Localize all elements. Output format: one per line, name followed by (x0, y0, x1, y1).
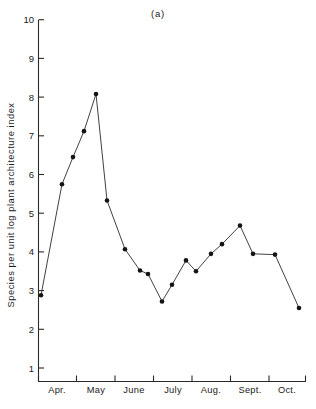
data-point (194, 269, 199, 274)
data-point (273, 252, 278, 257)
data-point (39, 293, 44, 298)
data-point (184, 258, 189, 263)
y-axis-label: Species per unit log plant architecture … (6, 102, 16, 307)
data-point (146, 272, 151, 277)
y-tick-label-1: 1 (29, 363, 34, 374)
x-tick-label-oct: Oct. (278, 385, 296, 395)
data-point (238, 223, 243, 228)
y-tick-label-10: 10 (23, 14, 34, 25)
data-point (160, 299, 165, 304)
x-tick-label-june: June (123, 385, 144, 395)
y-tick-label-4: 4 (29, 246, 34, 257)
x-tick-label-sept: Sept. (238, 385, 261, 395)
y-tick-label-2: 2 (29, 324, 34, 335)
chart-svg: (a) Species per unit log plant architect… (0, 0, 316, 409)
y-tick-group (39, 20, 45, 368)
figure-panel: (a) Species per unit log plant architect… (0, 0, 316, 409)
data-point (138, 268, 143, 273)
data-point (170, 283, 175, 288)
series-line (41, 94, 299, 308)
x-tick-label-july: July (164, 385, 182, 395)
data-point (94, 92, 99, 97)
data-point (123, 247, 128, 252)
data-point (60, 182, 65, 187)
data-point (220, 242, 225, 247)
data-point (297, 306, 302, 311)
y-tick-label-7: 7 (29, 130, 34, 141)
x-tick-label-may: May (87, 385, 106, 395)
chart-title: (a) (151, 8, 165, 19)
y-tick-label-9: 9 (29, 53, 34, 64)
y-tick-label-6: 6 (29, 169, 34, 180)
data-point (105, 198, 110, 203)
data-point (71, 155, 76, 160)
data-point (209, 252, 214, 257)
x-tick-label-aug: Aug. (201, 385, 221, 395)
y-tick-label-5: 5 (29, 208, 34, 219)
x-tick-group (39, 376, 306, 382)
data-point (251, 252, 256, 257)
x-tick-label-apr: Apr. (48, 385, 66, 395)
data-point (82, 129, 87, 134)
series-marker-group (39, 92, 302, 311)
y-tick-label-8: 8 (29, 92, 34, 103)
y-tick-label-3: 3 (29, 285, 34, 296)
